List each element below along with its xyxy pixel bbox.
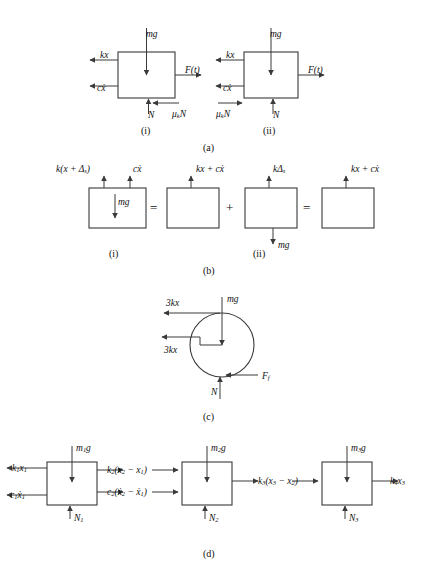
label-friction-force: μkN [172,110,186,120]
free-body-box [322,188,374,228]
label-damping-force: cẋ [223,84,231,94]
label-weight-m3g: m3g [351,444,366,454]
free-body-box [89,188,146,228]
label-spring-static-total: k(x + Δs) [56,165,90,175]
label-dynamic-force: kx + cẋ [196,165,224,175]
label-damper-c2-coupling: c2(ẋ2 − ẋ1) [107,488,147,498]
label-weight-mg: mg [146,30,158,40]
subtag-a-i: (i) [141,126,150,136]
label-friction-force: μkN [216,110,230,120]
panel-tag-b: (b) [203,266,215,276]
label-damping-force: cẋ [97,84,105,94]
label-applied-force-ft: F(t) [308,66,323,76]
label-spring-k1x1: k1x1 [12,464,27,474]
label-weight-m1g: m1g [76,444,91,454]
subtag-b-i: (i) [109,249,118,259]
label-weight-m2g: m2g [211,444,226,454]
label-spring-force-3kx-top: 3kx [166,299,179,309]
label-spring-force-kx: kx [100,51,108,61]
label-weight-mg: mg [278,241,290,251]
free-body-box [167,188,219,228]
label-normal-force-n3: N3 [349,514,359,524]
label-applied-force-ft: F(t) [185,66,200,76]
label-spring-force-3kx-mid: 3kx [164,346,177,356]
subtag-a-ii: (ii) [263,126,275,136]
label-normal-force-n: N [273,111,279,121]
subtag-b-ii: (ii) [253,249,265,259]
label-spring-k4x3: k4x3 [390,477,405,487]
label-damping-force: cẋ [133,165,141,175]
label-damper-c1x1dot: c1ẋ1 [10,491,25,501]
label-normal-force-n2: N2 [209,514,219,524]
label-friction-force-ff: Ff [262,372,270,382]
operator-equals: = [303,201,310,214]
label-spring-k3-coupling: k3(x3 − x2) [258,477,298,487]
label-spring-force-kx: kx [226,51,234,61]
label-weight-mg: mg [270,30,282,40]
figure-root: mg kx cẋ F(t) N μkN mg kx cẋ F(t) N μkN … [0,0,428,574]
panel-tag-d: (d) [203,549,215,559]
label-static-spring: kΔs [273,165,285,175]
panel-tag-a: (a) [203,143,214,153]
label-normal-force-n: N [148,111,154,121]
label-spring-k2-coupling: k2(x2 − x1) [107,466,147,476]
label-weight-mg: mg [118,198,130,208]
label-dynamic-force: kx + cẋ [351,165,379,175]
figure-vector-layer [0,0,428,574]
label-normal-force-n: N [211,388,217,398]
label-normal-force-n1: N1 [74,514,84,524]
panel-tag-c: (c) [203,412,214,422]
label-weight-mg: mg [227,295,239,305]
free-body-box [245,188,297,228]
operator-equals: = [150,201,157,214]
operator-plus: + [226,201,233,214]
